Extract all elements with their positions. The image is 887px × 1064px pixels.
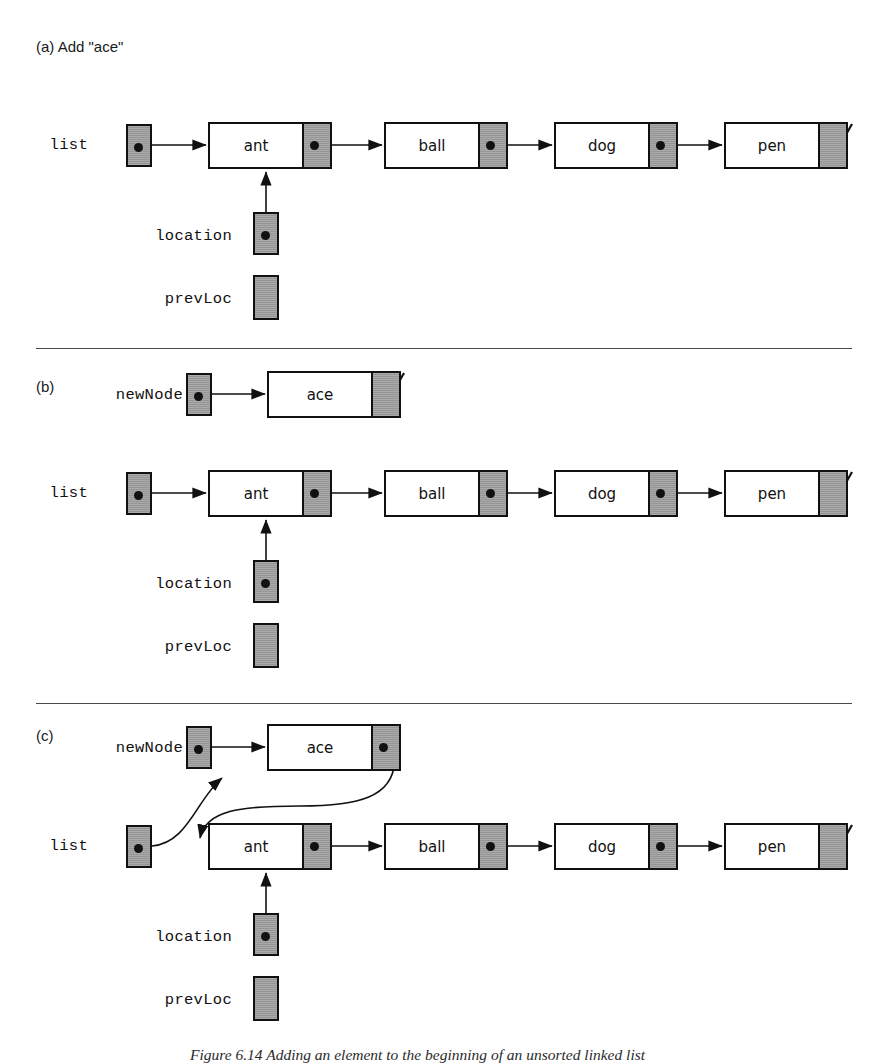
pointer-dot bbox=[261, 932, 270, 941]
var-label-prevloc-b: prevLoc bbox=[20, 638, 232, 656]
node-pen-c: pen bbox=[724, 823, 848, 870]
pointer-dot bbox=[261, 231, 270, 240]
node-ant-b: ant bbox=[208, 470, 332, 517]
pointer-box-prevloc-c bbox=[253, 976, 279, 1021]
node-link bbox=[302, 825, 330, 868]
node-pen-a: pen bbox=[724, 122, 848, 169]
pointer-dot bbox=[310, 141, 319, 150]
node-ace-c: ace bbox=[267, 724, 401, 771]
node-data: ant bbox=[210, 825, 302, 868]
pointer-box-prevloc-b bbox=[253, 623, 279, 668]
node-link bbox=[302, 472, 330, 515]
var-label-location-a: location bbox=[20, 227, 232, 245]
node-link-null bbox=[818, 825, 846, 868]
node-data: pen bbox=[726, 825, 818, 868]
node-data: pen bbox=[726, 472, 818, 515]
pointer-dot bbox=[656, 842, 665, 851]
pointer-dot bbox=[134, 844, 143, 853]
pointer-box-location-a bbox=[253, 212, 279, 255]
var-label-location-c: location bbox=[20, 928, 232, 946]
panel-label-a: (a) Add "ace" bbox=[36, 38, 123, 55]
pointer-dot bbox=[379, 743, 388, 752]
pointer-box-list-b bbox=[126, 472, 152, 515]
var-label-list-b: list bbox=[20, 484, 88, 502]
var-label-list-a: list bbox=[20, 136, 88, 154]
node-ace-b: ace bbox=[267, 371, 401, 418]
pointer-dot bbox=[656, 141, 665, 150]
var-label-newnode-b: newNode bbox=[20, 386, 183, 404]
node-data: ball bbox=[386, 825, 478, 868]
node-data: dog bbox=[556, 472, 648, 515]
node-data: dog bbox=[556, 124, 648, 167]
pointer-dot bbox=[194, 392, 203, 401]
pointer-dot bbox=[486, 141, 495, 150]
node-dog-c: dog bbox=[554, 823, 678, 870]
node-ball-b: ball bbox=[384, 470, 508, 517]
node-link-null bbox=[371, 373, 399, 416]
node-ball-c: ball bbox=[384, 823, 508, 870]
pointer-box-location-c bbox=[253, 913, 279, 956]
pointer-dot bbox=[486, 489, 495, 498]
node-data: ant bbox=[210, 472, 302, 515]
node-data: pen bbox=[726, 124, 818, 167]
node-data: ace bbox=[269, 726, 371, 769]
var-label-newnode-c: newNode bbox=[20, 739, 183, 757]
var-label-location-b: location bbox=[20, 575, 232, 593]
node-link-null bbox=[818, 472, 846, 515]
node-ant-c: ant bbox=[208, 823, 332, 870]
node-link bbox=[371, 726, 399, 769]
node-pen-b: pen bbox=[724, 470, 848, 517]
node-dog-b: dog bbox=[554, 470, 678, 517]
pointer-box-newnode-c bbox=[186, 726, 212, 769]
panel-divider-1 bbox=[36, 348, 852, 349]
pointer-box-list-a bbox=[126, 124, 152, 167]
node-link bbox=[648, 124, 676, 167]
node-dog-a: dog bbox=[554, 122, 678, 169]
node-data: ball bbox=[386, 472, 478, 515]
pointer-dot bbox=[310, 489, 319, 498]
node-link bbox=[648, 825, 676, 868]
node-link bbox=[478, 472, 506, 515]
node-data: ant bbox=[210, 124, 302, 167]
node-link bbox=[302, 124, 330, 167]
node-data: ace bbox=[269, 373, 371, 416]
pointer-box-list-c bbox=[126, 825, 152, 868]
node-ant-a: ant bbox=[208, 122, 332, 169]
figure-caption: Figure 6.14 Adding an element to the beg… bbox=[190, 1046, 645, 1064]
node-data: dog bbox=[556, 825, 648, 868]
pointer-dot bbox=[261, 579, 270, 588]
node-link bbox=[478, 124, 506, 167]
pointer-dot bbox=[656, 489, 665, 498]
node-link-null bbox=[818, 124, 846, 167]
pointer-dot bbox=[310, 842, 319, 851]
node-link bbox=[648, 472, 676, 515]
var-label-list-c: list bbox=[20, 837, 88, 855]
panel-divider-2 bbox=[36, 703, 852, 704]
var-label-prevloc-c: prevLoc bbox=[20, 991, 232, 1009]
pointer-dot bbox=[134, 143, 143, 152]
pointer-dot bbox=[194, 745, 203, 754]
node-data: ball bbox=[386, 124, 478, 167]
pointer-box-prevloc-a bbox=[253, 275, 279, 320]
var-label-prevloc-a: prevLoc bbox=[20, 290, 232, 308]
pointer-dot bbox=[134, 491, 143, 500]
pointer-box-newnode-b bbox=[186, 373, 212, 416]
pointer-box-location-b bbox=[253, 560, 279, 603]
node-ball-a: ball bbox=[384, 122, 508, 169]
pointer-dot bbox=[486, 842, 495, 851]
node-link bbox=[478, 825, 506, 868]
